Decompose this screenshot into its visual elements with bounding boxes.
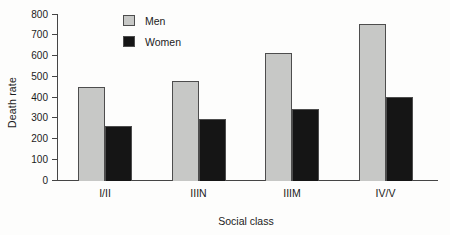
legend-label-women: Women bbox=[145, 36, 181, 48]
legend-swatch-women bbox=[123, 36, 135, 47]
bar-men-iv-v bbox=[359, 24, 386, 181]
y-tick-label-600: 600 bbox=[20, 50, 48, 61]
x-tick-label-iv-v: IV/V bbox=[354, 187, 418, 199]
x-tick-label-iiim: IIIM bbox=[260, 187, 324, 199]
legend-swatch-men bbox=[123, 15, 135, 26]
y-tick-label-200: 200 bbox=[20, 133, 48, 144]
y-tick-600 bbox=[52, 55, 57, 56]
x-tick-label-iiin: IIIN bbox=[167, 187, 231, 199]
y-tick-200 bbox=[52, 138, 57, 139]
y-tick-label-800: 800 bbox=[20, 9, 48, 20]
y-tick-400 bbox=[52, 97, 57, 98]
bar-women-i-ii bbox=[105, 126, 132, 181]
y-axis-title: Death rate bbox=[6, 58, 20, 146]
bar-women-iiin bbox=[199, 119, 226, 181]
y-tick-label-700: 700 bbox=[20, 29, 48, 40]
y-tick-label-300: 300 bbox=[20, 112, 48, 123]
y-axis-line bbox=[57, 14, 58, 180]
y-tick-700 bbox=[52, 34, 57, 35]
bar-women-iv-v bbox=[386, 97, 413, 181]
y-tick-800 bbox=[52, 14, 57, 15]
y-tick-label-100: 100 bbox=[20, 154, 48, 165]
y-tick-label-500: 500 bbox=[20, 71, 48, 82]
bar-men-iiin bbox=[172, 81, 199, 181]
x-tick-label-i-ii: I/II bbox=[73, 187, 137, 199]
death-rate-bar-chart: Death rate 0100200300400500600700800 I/I… bbox=[0, 0, 450, 235]
y-tick-300 bbox=[52, 117, 57, 118]
y-tick-500 bbox=[52, 76, 57, 77]
bar-men-iiim bbox=[265, 53, 292, 181]
y-tick-100 bbox=[52, 159, 57, 160]
legend-label-men: Men bbox=[145, 15, 165, 27]
bar-women-iiim bbox=[292, 109, 319, 181]
x-axis-title: Social class bbox=[186, 215, 306, 227]
y-tick-0 bbox=[52, 180, 57, 181]
y-tick-label-0: 0 bbox=[20, 175, 48, 186]
bar-men-i-ii bbox=[78, 87, 105, 181]
y-tick-label-400: 400 bbox=[20, 92, 48, 103]
